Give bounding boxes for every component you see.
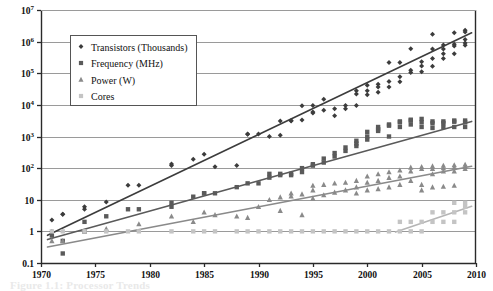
- datapoint-1-59: [441, 125, 445, 129]
- datapoint-1-37: [365, 134, 369, 138]
- datapoint-1-32: [343, 145, 347, 149]
- y-tick-label-5: 104: [21, 99, 35, 111]
- datapoint-0-31: [332, 113, 337, 118]
- datapoint-0-45: [387, 84, 392, 89]
- datapoint-3-34: [441, 210, 445, 214]
- legend-item-1[interactable]: Frequency (MHz): [79, 58, 163, 70]
- datapoint-3-19: [332, 229, 336, 233]
- datapoint-2-48: [419, 182, 424, 187]
- datapoint-3-0: [50, 229, 54, 233]
- datapoint-1-58: [441, 121, 445, 125]
- datapoint-0-65: [452, 51, 457, 56]
- y-tick-label-7: 106: [21, 36, 35, 48]
- datapoint-2-28: [354, 178, 359, 183]
- datapoint-1-26: [311, 162, 315, 166]
- x-tick-label-8: 2010: [467, 270, 486, 280]
- datapoint-0-12: [202, 152, 207, 157]
- y-tick-exponent-6: 5: [31, 67, 35, 75]
- datapoint-0-23: [300, 118, 305, 123]
- datapoint-0-11: [191, 157, 196, 162]
- datapoint-1-3: [82, 220, 86, 224]
- datapoint-2-33: [365, 187, 370, 192]
- datapoint-2-41: [397, 173, 402, 178]
- y-axis-ticks: 0.1110102103104105106107: [21, 4, 41, 269]
- datapoint-1-15: [245, 181, 249, 185]
- datapoint-1-46: [398, 120, 402, 124]
- datapoint-1-53: [419, 125, 423, 129]
- datapoint-0-53: [419, 59, 424, 64]
- datapoint-1-44: [387, 134, 391, 138]
- datapoint-2-5: [169, 213, 174, 218]
- datapoint-3-29: [419, 229, 423, 233]
- datapoint-1-8: [169, 205, 173, 209]
- datapoint-2-12: [267, 197, 272, 202]
- datapoint-3-3: [104, 229, 108, 233]
- datapoint-2-29: [354, 184, 359, 189]
- datapoint-2-39: [386, 184, 391, 189]
- datapoint-0-5: [82, 207, 87, 212]
- datapoint-1-38: [365, 130, 369, 134]
- datapoint-3-36: [452, 210, 456, 214]
- datapoint-2-16: [288, 190, 293, 195]
- legend-label-2: Power (W): [91, 75, 135, 87]
- y-tick-label-0: 0.1: [22, 259, 34, 269]
- datapoint-2-24: [332, 180, 337, 185]
- datapoint-2-57: [441, 184, 446, 189]
- datapoint-1-65: [463, 125, 467, 129]
- legend-label-1: Frequency (MHz): [91, 58, 163, 70]
- datapoint-1-28: [322, 156, 326, 160]
- datapoint-1-9: [169, 201, 173, 205]
- y-tick-exponent-4: 3: [31, 131, 35, 139]
- datapoint-1-22: [289, 172, 293, 176]
- datapoint-0-8: [136, 183, 141, 188]
- datapoint-0-14: [234, 163, 239, 168]
- figure-caption: Figure 1.1: Processor Trends: [10, 279, 150, 291]
- datapoint-2-42: [397, 182, 402, 187]
- x-tick-label-4: 1990: [250, 270, 269, 280]
- datapoint-3-2: [82, 229, 86, 233]
- datapoint-0-39: [365, 92, 370, 97]
- y-tick-exponent-5: 4: [31, 99, 35, 107]
- datapoint-0-7: [126, 183, 131, 188]
- datapoint-2-13: [278, 194, 283, 199]
- datapoint-3-26: [398, 220, 402, 224]
- datapoint-3-37: [452, 201, 456, 205]
- datapoint-1-14: [235, 185, 239, 189]
- x-tick-label-6: 2000: [358, 270, 377, 280]
- datapoint-2-9: [234, 213, 239, 218]
- datapoint-3-15: [289, 229, 293, 233]
- datapoint-3-28: [409, 220, 413, 224]
- datapoint-1-35: [354, 139, 358, 143]
- datapoint-2-17: [299, 191, 304, 196]
- datapoint-2-31: [365, 173, 370, 178]
- y-tick-label-8: 107: [21, 4, 35, 16]
- datapoint-3-18: [322, 229, 326, 233]
- datapoint-0-62: [441, 51, 446, 56]
- datapoint-3-10: [235, 229, 239, 233]
- datapoint-3-5: [137, 229, 141, 233]
- datapoint-3-30: [419, 220, 423, 224]
- datapoint-3-20: [343, 229, 347, 233]
- datapoint-2-61: [452, 183, 457, 188]
- datapoint-0-70: [463, 37, 468, 42]
- datapoint-1-24: [300, 166, 304, 170]
- datapoint-2-32: [365, 180, 370, 185]
- legend-label-3: Cores: [91, 91, 114, 102]
- datapoint-2-18: [299, 212, 304, 217]
- datapoint-3-1: [61, 229, 65, 233]
- datapoint-1-49: [409, 118, 413, 122]
- datapoint-0-40: [376, 90, 381, 95]
- legend-item-0[interactable]: Transistors (Thousands): [79, 42, 188, 54]
- datapoint-1-0: [50, 233, 54, 237]
- datapoint-0-33: [343, 106, 348, 111]
- datapoint-0-30: [332, 106, 337, 111]
- datapoint-1-47: [398, 125, 402, 129]
- x-tick-label-5: 1995: [304, 270, 323, 280]
- datapoint-1-43: [387, 122, 391, 126]
- x-tick-label-3: 1985: [195, 270, 214, 280]
- datapoint-1-6: [126, 207, 130, 211]
- datapoint-3-35: [452, 220, 456, 224]
- datapoint-2-10: [245, 215, 250, 220]
- datapoint-3-7: [191, 229, 195, 233]
